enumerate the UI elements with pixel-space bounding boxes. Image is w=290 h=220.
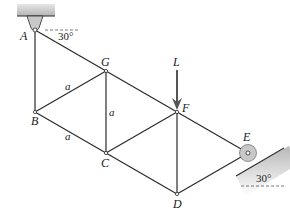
angle-label-a: 30° <box>58 30 73 42</box>
truss-members <box>35 30 248 194</box>
joint-g <box>104 69 107 72</box>
joint-label-d: D <box>172 197 182 211</box>
pin-support-a <box>17 4 55 31</box>
angle-label-e: 30° <box>256 172 271 184</box>
member-cf <box>106 112 177 153</box>
ceiling-block <box>17 4 55 16</box>
dimension-label-bg: a <box>65 80 71 92</box>
member-gf <box>106 71 177 112</box>
load-label: L <box>172 55 180 69</box>
truss-diagram: 30° 30° L A G F E <box>0 0 290 220</box>
joint-c <box>104 151 107 154</box>
roller-support-e: 30° <box>236 145 290 197</box>
joint-label-a: A <box>19 29 28 43</box>
member-bc <box>35 112 106 153</box>
member-cd <box>106 153 177 194</box>
joint-label-b: B <box>31 114 39 128</box>
joint-d <box>175 192 178 195</box>
joint-label-g: G <box>101 55 110 69</box>
member-bg <box>35 71 106 112</box>
joint-e <box>246 151 250 155</box>
joint-label-e: E <box>242 130 251 144</box>
load-arrow: L <box>172 55 182 110</box>
joint-a <box>33 28 37 32</box>
member-de <box>177 153 248 194</box>
member-fe <box>177 112 248 153</box>
joint-f <box>175 110 178 113</box>
dimension-label-gc: a <box>109 106 115 118</box>
joint-label-c: C <box>101 156 110 170</box>
dimension-label-bc: a <box>65 130 71 142</box>
joint-label-f: F <box>181 101 190 115</box>
